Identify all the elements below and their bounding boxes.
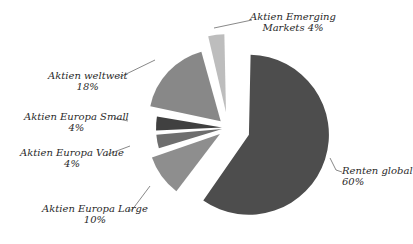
label-weltweit-value: 18%: [48, 81, 127, 92]
pie-slices: [150, 34, 329, 215]
label-aktien-emerging-markets: Aktien Emerging Markets 4%: [250, 11, 336, 33]
label-aktien-europa-small: Aktien Europa Small 4%: [24, 111, 129, 133]
label-emerging-value: Markets 4%: [250, 22, 336, 33]
pie-slice-aktien-weltweit: [150, 52, 220, 121]
leader-emerging: [214, 20, 252, 28]
label-weltweit-name: Aktien weltweit: [48, 70, 127, 81]
label-renten-value: 60%: [342, 176, 413, 187]
label-large-value: 10%: [42, 214, 148, 225]
label-value-name: Aktien Europa Value: [20, 147, 124, 158]
label-aktien-weltweit: Aktien weltweit 18%: [48, 70, 127, 92]
label-renten-name: Renten global: [342, 165, 413, 176]
label-large-name: Aktien Europa Large: [42, 203, 148, 214]
label-value-value: 4%: [20, 158, 124, 169]
label-aktien-europa-large: Aktien Europa Large 10%: [42, 203, 148, 225]
leader-renten: [330, 158, 342, 172]
label-small-name: Aktien Europa Small: [24, 111, 129, 122]
label-renten-global: Renten global 60%: [342, 165, 413, 187]
label-aktien-europa-value: Aktien Europa Value 4%: [20, 147, 124, 169]
label-small-value: 4%: [24, 122, 129, 133]
label-emerging-name: Aktien Emerging: [250, 11, 336, 22]
